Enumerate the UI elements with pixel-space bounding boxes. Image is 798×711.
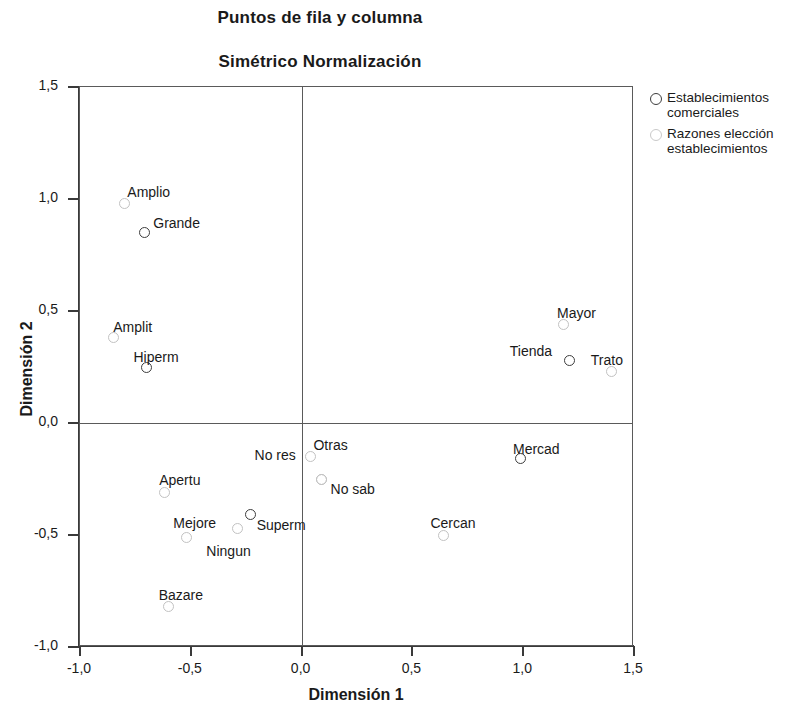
data-point-tienda xyxy=(564,355,575,366)
x-tick xyxy=(301,646,303,656)
data-point-mejore xyxy=(232,523,243,534)
y-tick-label: 1,5 xyxy=(10,77,58,93)
correspondence-analysis-chart: Puntos de fila y columna Simétrico Norma… xyxy=(0,0,798,711)
horizontal-zero-line xyxy=(80,423,632,424)
point-label-superm: Superm xyxy=(257,517,306,533)
y-tick xyxy=(68,422,79,424)
legend-item-label: Establecimientoscomerciales xyxy=(667,90,769,120)
x-tick xyxy=(633,646,635,656)
data-point-cercan xyxy=(438,530,449,541)
legend-label-line1: Razones elección xyxy=(667,126,774,141)
data-point-grande xyxy=(139,227,150,238)
y-tick-label: 1,0 xyxy=(10,189,58,205)
vertical-zero-line xyxy=(302,87,303,645)
y-tick xyxy=(68,310,79,312)
point-label-amplit: Amplit xyxy=(113,319,152,335)
point-label-tienda: Tienda xyxy=(510,343,552,359)
y-tick-label: -1,0 xyxy=(10,637,58,653)
y-tick xyxy=(68,646,79,648)
point-label-cercan: Cercan xyxy=(430,515,475,531)
legend-circle-icon xyxy=(650,93,662,105)
x-tick xyxy=(522,646,524,656)
x-tick-label: 0,5 xyxy=(381,660,441,676)
point-label-mercad: Mercad xyxy=(513,441,560,457)
point-label-mayor: Mayor xyxy=(557,305,596,321)
point-label-otras: Otras xyxy=(313,437,347,453)
y-axis-title: Dimensión 2 xyxy=(18,249,36,489)
x-tick-label: -1,0 xyxy=(49,660,109,676)
point-label-grande: Grande xyxy=(153,215,200,231)
x-tick-label: 1,0 xyxy=(492,660,552,676)
point-label-no-res: No res xyxy=(255,447,296,463)
y-tick xyxy=(68,198,79,200)
y-tick xyxy=(68,534,79,536)
x-tick-label: -0,5 xyxy=(160,660,220,676)
x-tick xyxy=(411,646,413,656)
legend: EstablecimientoscomercialesRazones elecc… xyxy=(650,90,798,162)
point-label-mejore: Mejore xyxy=(173,515,216,531)
data-point-otras xyxy=(305,451,316,462)
point-label-apertu: Apertu xyxy=(159,472,200,488)
data-point-no-sab xyxy=(316,474,327,485)
point-label-bazare: Bazare xyxy=(159,587,203,603)
data-point-superm xyxy=(245,509,256,520)
y-tick-label: -0,5 xyxy=(10,525,58,541)
x-tick xyxy=(190,646,192,656)
legend-item-row: Establecimientoscomerciales xyxy=(650,90,798,120)
legend-label-line2: comerciales xyxy=(667,105,769,120)
chart-subtitle: Simétrico Normalización xyxy=(0,52,640,72)
legend-label-line1: Establecimientos xyxy=(667,90,769,105)
data-point-ningun xyxy=(181,532,192,543)
legend-label-line2: establecimientos xyxy=(667,141,774,156)
point-label-trato: Trato xyxy=(591,352,623,368)
point-label-hiperm: Hiperm xyxy=(133,349,178,365)
x-tick xyxy=(79,646,81,656)
x-tick-label: 0,0 xyxy=(271,660,331,676)
legend-item-col: Razones elecciónestablecimientos xyxy=(650,126,798,156)
legend-item-label: Razones elecciónestablecimientos xyxy=(667,126,774,156)
legend-circle-icon xyxy=(650,129,662,141)
chart-title: Puntos de fila y columna xyxy=(0,8,640,28)
point-label-no-sab: No sab xyxy=(331,481,375,497)
point-label-ningun: Ningun xyxy=(206,543,250,559)
x-tick-label: 1,5 xyxy=(603,660,663,676)
data-point-bazare xyxy=(163,601,174,612)
data-point-apertu xyxy=(159,487,170,498)
y-tick xyxy=(68,86,79,88)
x-axis-title: Dimensión 1 xyxy=(79,686,633,704)
plot-area: GrandeHipermTiendaMercadSupermAmplioAmpl… xyxy=(79,86,633,646)
point-label-amplio: Amplio xyxy=(127,184,170,200)
